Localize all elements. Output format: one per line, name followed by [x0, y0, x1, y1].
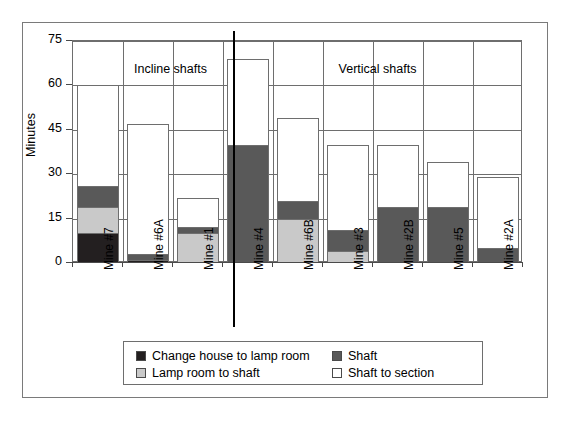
y-axis-tick-label: 30: [18, 166, 62, 179]
gridline: [73, 41, 521, 42]
x-axis-label: Mine #3: [353, 227, 365, 270]
chart-screenshot: Minutes 01530456075 Mine #7Mine #6AMine …: [0, 0, 575, 422]
x-axis-label: Mine #4: [253, 227, 265, 270]
legend-item[interactable]: Shaft: [332, 349, 377, 363]
x-axis-label: Mine #7: [103, 227, 115, 270]
legend-label: Shaft to section: [348, 366, 434, 380]
legend-swatch-icon: [136, 368, 146, 378]
gridline: [73, 85, 521, 86]
legend-item[interactable]: Shaft to section: [332, 366, 434, 380]
x-axis-tick: [222, 262, 223, 267]
legend-label: Lamp room to shaft: [152, 366, 260, 380]
y-axis-tick-label: 0: [18, 255, 62, 268]
y-axis-tick-label: 15: [18, 211, 62, 224]
bar-segment: [77, 186, 119, 207]
y-axis-tick-label: 45: [18, 122, 62, 135]
legend-item[interactable]: Lamp room to shaft: [136, 366, 260, 380]
y-axis-tick-label: 60: [18, 77, 62, 90]
legend-label: Shaft: [348, 349, 377, 363]
category-separator: [273, 41, 274, 263]
legend-item[interactable]: Change house to lamp room: [136, 349, 310, 363]
x-axis-tick: [322, 262, 323, 267]
x-axis-label: Mine #2B: [403, 219, 415, 270]
x-axis-label: Mine #5: [453, 227, 465, 270]
y-axis-tick-label: 75: [18, 33, 62, 46]
x-axis-tick: [522, 262, 523, 267]
bar-segment: [277, 118, 319, 201]
legend-swatch-icon: [136, 351, 146, 361]
legend-swatch-icon: [332, 368, 342, 378]
bar-segment: [277, 201, 319, 219]
x-axis-tick: [422, 262, 423, 267]
x-axis-tick: [372, 262, 373, 267]
x-axis-label: Mine #2A: [503, 219, 515, 270]
legend-swatch-icon: [332, 351, 342, 361]
category-separator: [473, 41, 474, 263]
x-axis-tick: [172, 262, 173, 267]
bar-segment: [427, 162, 469, 206]
x-axis-tick: [472, 262, 473, 267]
bar-segment: [327, 145, 369, 231]
chart-legend: Change house to lamp roomShaftLamp room …: [123, 341, 483, 385]
x-axis-tick: [72, 262, 73, 267]
x-axis-label: Mine #6B: [303, 219, 315, 270]
group-title-vertical-shafts: Vertical shafts: [308, 62, 448, 76]
x-axis-label: Mine #6A: [153, 219, 165, 270]
bar-segment: [377, 145, 419, 207]
group-title-incline-shafts: Incline shafts: [101, 62, 241, 76]
bar-segment: [77, 85, 119, 186]
legend-label: Change house to lamp room: [152, 349, 310, 363]
x-axis-label: Mine #1: [203, 227, 215, 270]
bar-segment: [177, 198, 219, 228]
x-axis-tick: [272, 262, 273, 267]
x-axis-tick: [122, 262, 123, 267]
